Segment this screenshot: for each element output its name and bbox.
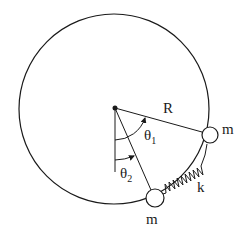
radius-label: R [163,100,173,116]
theta2-arc [115,156,134,160]
mass-upper-label: m [222,121,234,137]
mass-upper [202,127,218,143]
theta2-label: θ2 [120,165,132,184]
diagram-canvas: R m m k θ1 θ2 [0,0,248,233]
mass-lower-label: m [146,211,158,227]
rod-upper [115,108,202,132]
theta1-arc [115,118,145,140]
theta1-label: θ1 [144,127,156,146]
mass-lower [146,189,164,207]
center-pivot [113,106,118,111]
spring-constant-label: k [197,179,205,195]
